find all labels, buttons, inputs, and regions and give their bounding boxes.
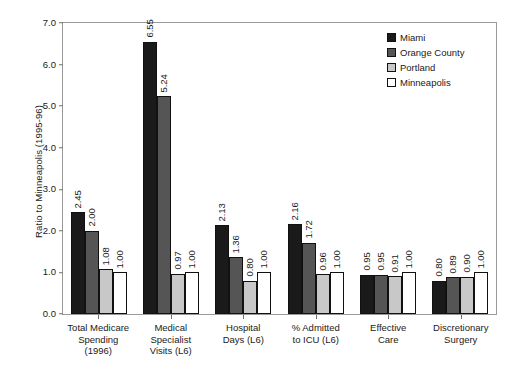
- legend-item-portland[interactable]: Portland: [387, 60, 464, 75]
- legend-item-minneapolis[interactable]: Minneapolis: [387, 75, 464, 90]
- bar[interactable]: [185, 272, 199, 314]
- bar-value-label: 1.36: [231, 235, 241, 253]
- x-tick-mark: [171, 315, 172, 319]
- x-axis-category-label: Effective Care: [352, 322, 425, 357]
- bar-wrap: 1.08: [99, 23, 113, 314]
- bar-wrap: 1.00: [330, 23, 344, 314]
- y-tick-1.0: 1.0: [43, 268, 63, 278]
- bar-value-label: 1.00: [332, 250, 342, 268]
- x-tick-cell: [207, 315, 280, 320]
- bar-wrap: 1.00: [185, 23, 199, 314]
- legend-swatch-icon: [387, 33, 396, 42]
- bar[interactable]: [402, 272, 416, 314]
- legend-label: Miami: [400, 33, 425, 43]
- bar[interactable]: [215, 225, 229, 314]
- bar-value-label: 6.55: [145, 20, 155, 38]
- legend: MiamiOrange CountyPortlandMinneapolis: [387, 30, 464, 90]
- bar-value-label: 2.16: [290, 202, 300, 220]
- bar-value-label: 0.95: [376, 252, 386, 270]
- bar-wrap: 1.00: [474, 23, 488, 314]
- bar-value-label: 0.90: [462, 255, 472, 273]
- y-tick-5.0: 5.0: [43, 101, 63, 111]
- bar-wrap: 2.16: [288, 23, 302, 314]
- y-tick-label: 4.0: [43, 143, 59, 153]
- x-axis-category-label: Medical Specialist Visits (L6): [135, 322, 208, 357]
- bar-value-label: 2.45: [73, 190, 83, 208]
- legend-item-miami[interactable]: Miami: [387, 30, 464, 45]
- bar[interactable]: [171, 274, 185, 314]
- bar-group: 2.131.360.801.00: [207, 23, 279, 314]
- bar-value-label: 2.13: [217, 203, 227, 221]
- bar[interactable]: [243, 281, 257, 314]
- bar-wrap: 0.97: [171, 23, 185, 314]
- x-axis-category-label: Hospital Days (L6): [207, 322, 280, 357]
- y-tick-label: 5.0: [43, 101, 59, 111]
- bar-wrap: 6.55: [143, 23, 157, 314]
- bar[interactable]: [288, 224, 302, 314]
- bar-value-label: 2.00: [87, 209, 97, 227]
- bar[interactable]: [432, 281, 446, 314]
- x-axis-labels: Total Medicare Spending (1996)Medical Sp…: [62, 322, 497, 357]
- bar[interactable]: [99, 269, 113, 314]
- bar[interactable]: [330, 272, 344, 314]
- x-axis-category-label: Total Medicare Spending (1996): [62, 322, 135, 357]
- bar-value-label: 1.00: [187, 250, 197, 268]
- bar-value-label: 5.24: [159, 74, 169, 92]
- bar[interactable]: [302, 243, 316, 315]
- bar[interactable]: [143, 42, 157, 314]
- bar-wrap: 1.72: [302, 23, 316, 314]
- bar-value-label: 0.80: [434, 259, 444, 277]
- y-tick-4.0: 4.0: [43, 143, 63, 153]
- bar-value-label: 0.91: [390, 254, 400, 272]
- y-axis-title: Ratio to Minneapolis (1995-96): [33, 52, 44, 292]
- legend-label: Minneapolis: [400, 78, 451, 88]
- bar[interactable]: [157, 96, 171, 314]
- x-tick-cell: [425, 315, 498, 320]
- y-tick-3.0: 3.0: [43, 185, 63, 195]
- bar[interactable]: [113, 272, 127, 314]
- bar-group: 2.161.720.961.00: [280, 23, 352, 314]
- bar-group: 6.555.240.971.00: [135, 23, 207, 314]
- bar-value-label: 0.96: [318, 252, 328, 270]
- bar[interactable]: [446, 277, 460, 314]
- bar[interactable]: [374, 275, 388, 314]
- x-tick-mark: [461, 315, 462, 319]
- y-tick-label: 1.0: [43, 268, 59, 278]
- bar[interactable]: [360, 275, 374, 314]
- bar[interactable]: [71, 212, 85, 314]
- x-tick-mark: [98, 315, 99, 319]
- y-tick-label: 3.0: [43, 185, 59, 195]
- legend-label: Portland: [400, 63, 435, 73]
- bar[interactable]: [316, 274, 330, 314]
- legend-label: Orange County: [400, 48, 464, 58]
- x-axis-category-label: Discretionary Surgery: [425, 322, 498, 357]
- bar[interactable]: [85, 231, 99, 314]
- bar-value-label: 1.00: [476, 250, 486, 268]
- bar-value-label: 1.00: [115, 250, 125, 268]
- y-tick-label: 2.0: [43, 226, 59, 236]
- bar-value-label: 0.97: [173, 252, 183, 270]
- bar[interactable]: [257, 272, 271, 314]
- y-tick-6.0: 6.0: [43, 60, 63, 70]
- bar[interactable]: [460, 277, 474, 314]
- bar-wrap: 1.00: [257, 23, 271, 314]
- bar-wrap: 1.00: [113, 23, 127, 314]
- bar-wrap: 0.80: [243, 23, 257, 314]
- bar-value-label: 1.00: [404, 250, 414, 268]
- bar-wrap: 5.24: [157, 23, 171, 314]
- bar-group: 2.452.001.081.00: [63, 23, 135, 314]
- x-tick-cell: [62, 315, 135, 320]
- bar[interactable]: [229, 257, 243, 314]
- y-tick-label: 6.0: [43, 60, 59, 70]
- x-tick-mark: [316, 315, 317, 319]
- x-tick-mark: [243, 315, 244, 319]
- bar-value-label: 0.89: [448, 255, 458, 273]
- bar-value-label: 1.08: [101, 247, 111, 265]
- bar[interactable]: [388, 276, 402, 314]
- y-tick-label: 7.0: [43, 18, 59, 28]
- y-tick-0.0: 0.0: [43, 309, 63, 319]
- bar-wrap: 0.96: [316, 23, 330, 314]
- legend-item-orange-county[interactable]: Orange County: [387, 45, 464, 60]
- legend-swatch-icon: [387, 63, 396, 72]
- bar[interactable]: [474, 272, 488, 314]
